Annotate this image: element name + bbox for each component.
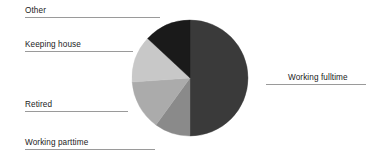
pie-label-other: Other <box>25 6 46 16</box>
leader-line-other <box>25 17 160 18</box>
leader-line-retired <box>25 111 128 112</box>
pie-label-keeping-house: Keeping house <box>25 40 81 50</box>
pie-label-working-fulltime: Working fulltime <box>288 73 348 83</box>
pie-label-retired: Retired <box>25 100 52 110</box>
pie-chart-figure: Other Keeping house Retired Working part… <box>0 0 374 163</box>
pie-slice-group <box>132 20 248 136</box>
pie-label-working-parttime: Working parttime <box>25 138 88 148</box>
pie-slice-working-fulltime <box>190 20 248 136</box>
leader-line-working-fulltime <box>266 84 366 85</box>
leader-line-working-parttime <box>25 149 155 150</box>
leader-line-keeping-house <box>25 51 133 52</box>
